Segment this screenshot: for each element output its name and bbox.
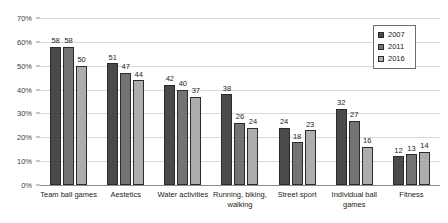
legend-label: 2007 (388, 31, 405, 39)
legend-swatch-icon (378, 44, 384, 50)
bar-value-label: 27 (343, 111, 365, 119)
legend-label: 2011 (388, 43, 404, 51)
legend-swatch-icon (378, 56, 384, 62)
bar-value-label: 32 (330, 99, 352, 107)
bar-value-label: 16 (356, 137, 378, 145)
y-axis-labels: 0%10%20%30%40%50%60%70% (0, 18, 36, 185)
bar (419, 152, 430, 185)
bar-value-label: 24 (242, 118, 264, 126)
x-axis-category-label: Fitness (383, 190, 440, 200)
bar (336, 109, 347, 185)
legend-item[interactable]: 2011 (378, 41, 412, 53)
legend-item[interactable]: 2016 (378, 53, 412, 65)
bar-value-label: 14 (413, 142, 435, 150)
x-axis-category-label: Water activities (154, 190, 211, 200)
x-axis-category-label: Individual ball games (326, 190, 383, 210)
bar-value-label: 58 (58, 37, 80, 45)
bar (349, 121, 360, 185)
y-axis-tick-label: 50% (0, 61, 32, 70)
bar (305, 130, 316, 185)
x-axis-category-label: Aestetics (97, 190, 154, 200)
bar-group: 585850 (40, 18, 97, 185)
x-axis-category-label: Running, biking, walking (211, 190, 268, 210)
x-axis-category-label: Team ball games (40, 190, 97, 200)
bar-value-label: 23 (299, 121, 321, 129)
bar (292, 142, 303, 185)
bar-group: 382624 (211, 18, 268, 185)
legend: 200720112016 (373, 25, 416, 69)
legend-swatch-icon (378, 32, 384, 38)
bar (190, 97, 201, 185)
bar (164, 85, 175, 185)
bar (362, 147, 373, 185)
y-axis-tick-label: 40% (0, 85, 32, 94)
bar (50, 47, 61, 185)
bar-value-label: 51 (102, 54, 124, 62)
y-axis-tick-label: 0% (0, 181, 32, 190)
bar (63, 47, 74, 185)
bar (221, 94, 232, 185)
bar-value-label: 24 (273, 118, 295, 126)
axis-baseline (40, 185, 440, 186)
bar (133, 80, 144, 185)
bar (177, 90, 188, 185)
bar (247, 128, 258, 185)
bar-chart: 0%10%20%30%40%50%60%70% 5858505147444240… (0, 0, 448, 223)
y-axis-tick-label: 70% (0, 14, 32, 23)
y-axis-tick-label: 10% (0, 157, 32, 166)
x-axis-category-label: Street sport (269, 190, 326, 200)
bar (406, 154, 417, 185)
bar-group: 424037 (154, 18, 211, 185)
bar (234, 123, 245, 185)
bar-group: 514744 (97, 18, 154, 185)
bar-value-label: 37 (185, 87, 207, 95)
bar-group: 241823 (269, 18, 326, 185)
bar (120, 73, 131, 185)
bar (76, 66, 87, 185)
bar-value-label: 50 (71, 56, 93, 64)
bar-value-label: 38 (216, 85, 238, 93)
bar (107, 63, 118, 185)
y-axis-tick-label: 60% (0, 37, 32, 46)
y-axis-tick-label: 30% (0, 109, 32, 118)
bar-value-label: 44 (128, 71, 150, 79)
y-axis-tick-label: 20% (0, 133, 32, 142)
legend-item[interactable]: 2007 (378, 29, 412, 41)
x-axis-labels: Team ball gamesAesteticsWater activities… (40, 190, 440, 223)
bar (393, 156, 404, 185)
legend-label: 2016 (388, 55, 405, 63)
